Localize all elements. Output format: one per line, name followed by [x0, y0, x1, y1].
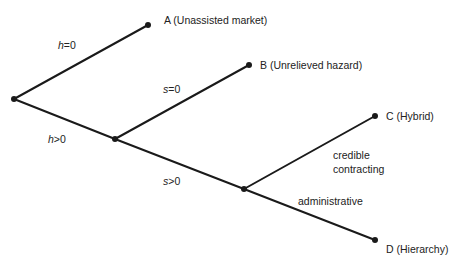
h-positive-label: h>0 — [48, 133, 66, 145]
h-positive-cond: >0 — [54, 133, 66, 145]
administrative-label: administrative — [298, 195, 363, 207]
contracting-schema-diagram: A (Unassisted market) B (Unrelieved haza… — [0, 0, 459, 268]
edge-n2-B — [115, 65, 249, 139]
h-zero-cond: =0 — [64, 39, 76, 51]
outcome-a-label: A (Unassisted market) — [164, 14, 267, 26]
node-B — [246, 62, 252, 68]
node-A — [145, 22, 151, 28]
credible-label: credible — [333, 149, 370, 161]
outcome-d-label: D (Hierarchy) — [386, 243, 448, 255]
s-zero-label: s=0 — [163, 83, 180, 95]
node-n2 — [112, 136, 118, 142]
node-C — [372, 113, 378, 119]
node-n3 — [241, 186, 247, 192]
outcome-c-label: C (Hybrid) — [386, 110, 434, 122]
outcome-b-label: B (Unrelieved hazard) — [260, 59, 362, 71]
s-positive-cond: >0 — [168, 175, 180, 187]
node-D — [372, 237, 378, 243]
contracting-label: contracting — [333, 163, 384, 175]
edge-root-A — [14, 25, 148, 99]
s-positive-label: s>0 — [163, 175, 180, 187]
node-root — [11, 96, 17, 102]
h-zero-label: h=0 — [58, 39, 76, 51]
s-zero-cond: =0 — [168, 83, 180, 95]
